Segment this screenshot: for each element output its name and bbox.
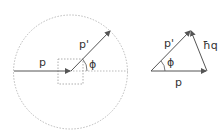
angle-arc-phi <box>83 60 87 72</box>
label-phi: ϕ <box>89 58 96 71</box>
label-p: p <box>175 76 182 89</box>
left-diagram: p p' ϕ <box>14 15 129 129</box>
right-diagram: p' ϕ ħq p <box>151 31 218 89</box>
label-p-prime: p' <box>79 38 89 51</box>
label-p-prime: p' <box>164 37 174 50</box>
label-p: p <box>39 56 46 69</box>
angle-arc-phi <box>161 61 165 71</box>
label-hq: ħq <box>203 39 218 52</box>
dotted-circle <box>14 15 128 129</box>
scattering-diagram: p p' ϕ p' ϕ ħq p <box>0 0 224 137</box>
label-phi: ϕ <box>167 56 174 69</box>
